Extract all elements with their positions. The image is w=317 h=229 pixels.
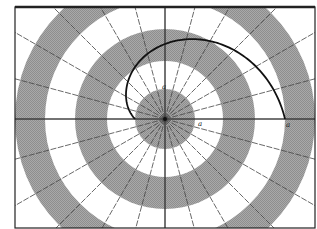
point-label: a bbox=[286, 121, 290, 129]
point-label: a bbox=[162, 83, 166, 91]
diagram-canvas: aaa bbox=[0, 0, 317, 229]
point-label: a bbox=[198, 120, 202, 128]
concentric-bands bbox=[0, 0, 317, 229]
polar-spiral-diagram: aaa bbox=[0, 0, 317, 229]
origin-point bbox=[163, 117, 167, 121]
